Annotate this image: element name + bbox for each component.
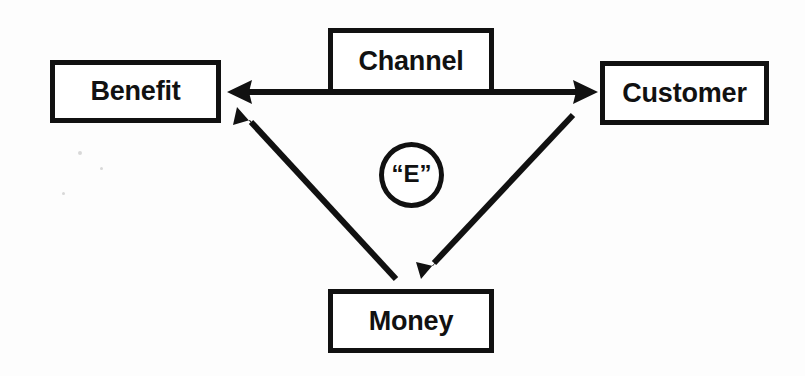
edge-money-benefit	[233, 107, 396, 279]
edge-customer-money-line	[434, 115, 573, 263]
node-channel[interactable]: Channel	[328, 28, 494, 94]
node-customer-label: Customer	[622, 80, 746, 107]
node-money[interactable]: Money	[328, 289, 494, 353]
node-customer[interactable]: Customer	[600, 61, 769, 125]
edge-benefit-customer-arrowhead-left	[227, 80, 252, 104]
scan-speck	[100, 167, 103, 170]
edge-customer-money	[416, 115, 573, 279]
node-money-label: Money	[369, 308, 454, 335]
edge-benefit-customer-arrowhead-right	[573, 80, 598, 104]
scan-speck	[78, 151, 82, 155]
scan-speck	[62, 192, 65, 195]
node-benefit[interactable]: Benefit	[50, 60, 221, 123]
node-benefit-label: Benefit	[90, 78, 180, 105]
node-e-circle[interactable]: “E”	[379, 142, 444, 208]
node-e-label: “E”	[391, 162, 431, 186]
edge-money-benefit-line	[251, 122, 396, 279]
node-channel-label: Channel	[358, 48, 463, 75]
diagram-canvas: Benefit Channel Customer Money “E”	[0, 0, 805, 376]
